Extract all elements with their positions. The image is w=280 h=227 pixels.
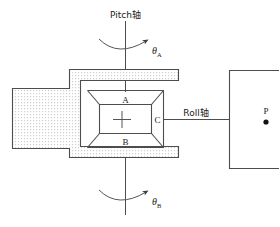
- node-a-label: A: [122, 95, 129, 105]
- theta-b-subscript: B: [157, 202, 162, 209]
- bevel-top-left: [88, 91, 100, 105]
- theta-b-label: θB: [152, 196, 162, 209]
- node-c-label: C: [154, 115, 160, 125]
- bevel-bottom-left: [88, 134, 100, 148]
- roll-axis-label: Roll轴: [183, 107, 208, 118]
- node-b-label: B: [122, 137, 128, 147]
- pitch-rotation-arrow-bottom: [99, 190, 146, 200]
- right-bracket: [230, 71, 280, 169]
- pitch-rotation-arrow-top: [99, 39, 146, 49]
- bevel-top-right: [152, 91, 164, 105]
- outer-gimbal-frame: [13, 70, 179, 158]
- bevel-bottom-right: [152, 134, 164, 148]
- pitch-axis-label: Pitch轴: [110, 9, 141, 20]
- point-p-marker: [263, 119, 268, 124]
- gimbal-diagram: Pitch轴 θA θB A B C Roll轴 P: [0, 0, 279, 227]
- theta-a-label: θA: [152, 45, 162, 58]
- theta-a-subscript: A: [157, 51, 162, 58]
- diagram-canvas: Pitch轴 θA θB A B C Roll轴 P: [0, 0, 279, 227]
- point-p-label: P: [263, 106, 268, 116]
